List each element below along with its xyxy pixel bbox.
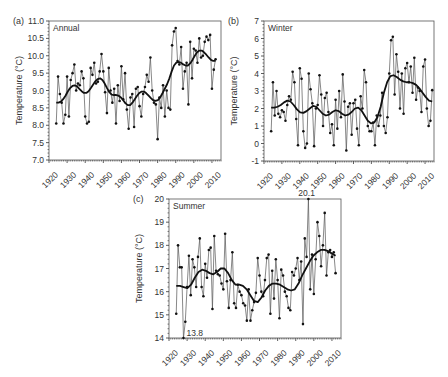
observed-line xyxy=(271,37,432,151)
data-point xyxy=(388,72,391,75)
data-point xyxy=(280,268,283,271)
data-point xyxy=(144,86,147,89)
data-point xyxy=(209,34,212,37)
data-point xyxy=(111,101,114,104)
y-tick-label: 14 xyxy=(155,333,165,343)
data-point xyxy=(173,30,176,33)
data-point xyxy=(100,53,103,56)
data-point xyxy=(383,125,386,128)
data-point xyxy=(249,319,252,322)
data-point xyxy=(305,256,308,259)
y-tick-label: 7 xyxy=(254,16,259,26)
data-point xyxy=(151,89,154,92)
data-point xyxy=(160,107,163,110)
data-point xyxy=(392,35,395,38)
data-point xyxy=(147,81,150,84)
data-point xyxy=(260,290,263,293)
data-point xyxy=(195,286,198,289)
data-point xyxy=(307,198,310,201)
data-point xyxy=(220,282,223,285)
y-tick-label: 16 xyxy=(155,287,165,297)
data-point xyxy=(358,144,361,147)
data-point xyxy=(196,61,199,64)
x-tick-label: 2010 xyxy=(323,347,344,368)
data-point xyxy=(402,112,405,115)
data-point xyxy=(338,90,341,93)
y-axis-label: Temperature (°C) xyxy=(14,56,24,125)
data-point xyxy=(318,235,321,238)
data-point xyxy=(320,93,323,96)
data-point xyxy=(295,118,298,121)
data-point xyxy=(57,75,60,78)
x-tick-label: 1920 xyxy=(40,169,61,190)
data-point xyxy=(269,312,272,315)
data-point xyxy=(104,91,107,94)
data-point xyxy=(149,56,152,59)
x-tick-label: 1970 xyxy=(130,169,151,190)
data-point xyxy=(282,111,285,114)
data-point xyxy=(275,258,278,261)
data-point xyxy=(291,70,294,73)
x-tick-label: 2000 xyxy=(304,347,325,368)
y-tick-label: 17 xyxy=(155,264,165,274)
data-point xyxy=(323,212,326,215)
data-point xyxy=(282,274,285,277)
data-point xyxy=(309,288,312,291)
data-point xyxy=(175,312,178,315)
x-tick-label: 1970 xyxy=(344,170,365,191)
data-point xyxy=(304,147,307,150)
data-point xyxy=(177,244,180,247)
panel-label: (a) xyxy=(13,16,24,26)
data-point xyxy=(180,46,183,49)
data-point xyxy=(224,232,227,235)
plot-frame xyxy=(49,21,221,160)
data-point xyxy=(345,149,348,152)
data-point xyxy=(286,104,289,107)
observed-line xyxy=(56,28,215,139)
data-point xyxy=(303,237,306,240)
data-point xyxy=(66,75,69,78)
data-point xyxy=(124,72,127,75)
data-point xyxy=(174,27,177,30)
data-point xyxy=(197,256,200,259)
y-tick-label: 7.0 xyxy=(32,155,44,165)
data-point xyxy=(279,116,282,119)
x-tick-label: 1940 xyxy=(196,347,217,368)
data-point xyxy=(178,63,181,66)
y-tick-label: 2 xyxy=(254,104,259,114)
data-point xyxy=(88,120,91,123)
y-axis-label: Temperature (°C) xyxy=(134,234,144,303)
data-point xyxy=(71,72,74,75)
data-point xyxy=(275,90,278,93)
data-point xyxy=(374,144,377,147)
data-point xyxy=(78,84,81,87)
x-tick-label: 1980 xyxy=(148,169,169,190)
data-point xyxy=(314,258,317,261)
data-point xyxy=(309,88,312,91)
data-point xyxy=(231,251,234,254)
data-point xyxy=(55,122,58,125)
x-tick-label: 1990 xyxy=(286,347,307,368)
data-point xyxy=(203,41,206,44)
x-tick-label: 1980 xyxy=(362,170,383,191)
x-tick-label: 1960 xyxy=(326,170,347,191)
data-point xyxy=(298,67,301,70)
y-axis-label: Temperature (°C) xyxy=(229,56,239,125)
data-point xyxy=(332,144,335,147)
data-point xyxy=(334,272,337,275)
data-point xyxy=(329,132,332,135)
x-tick-label: 1920 xyxy=(255,170,276,191)
data-point xyxy=(62,122,65,125)
y-tick-label: 1 xyxy=(254,121,259,131)
data-point xyxy=(255,292,258,295)
data-point xyxy=(324,97,327,100)
data-point xyxy=(117,84,120,87)
data-point xyxy=(331,123,334,126)
data-point xyxy=(270,130,273,133)
data-point xyxy=(256,257,259,260)
data-point xyxy=(331,256,334,259)
data-point xyxy=(325,274,328,277)
data-point xyxy=(185,61,188,64)
data-point xyxy=(399,107,402,110)
data-point xyxy=(325,91,328,94)
